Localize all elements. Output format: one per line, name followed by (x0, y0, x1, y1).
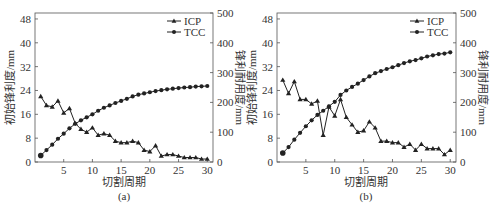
circle-marker (205, 84, 209, 88)
circle-marker (165, 87, 169, 91)
circle-marker (113, 101, 117, 105)
y-tick-label: 48 (20, 13, 32, 25)
circle-marker (425, 54, 429, 58)
figure-canvas: 510152025300816243240480100200300400500切… (0, 0, 494, 211)
circle-marker (379, 69, 383, 73)
y-tick-label: 40 (20, 37, 32, 49)
panel-caption: (a) (118, 190, 131, 203)
circle-marker (142, 91, 146, 95)
y2-tick-label: 300 (217, 67, 234, 79)
circle-marker (67, 126, 71, 130)
circle-marker (44, 148, 48, 152)
circle-marker (56, 137, 60, 141)
x-tick-label: 20 (387, 164, 399, 176)
y2-tick-label: 100 (460, 126, 477, 138)
circle-marker (431, 53, 435, 57)
circle-marker (50, 143, 54, 147)
circle-marker (442, 51, 446, 55)
triangle-marker (153, 143, 158, 147)
triangle-marker (90, 125, 95, 129)
circle-marker (286, 145, 290, 149)
circle-marker (136, 93, 140, 97)
x-tick-label: 10 (329, 164, 341, 176)
series-line-tcc (41, 86, 208, 155)
circle-marker (419, 56, 423, 60)
y-tick-label: 32 (262, 61, 273, 73)
legend-label: TCC (184, 26, 205, 38)
triangle-marker (315, 98, 320, 102)
circle-marker (194, 85, 198, 89)
legend-circle-icon (172, 30, 176, 34)
y-tick-label: 32 (20, 61, 31, 73)
circle-marker (182, 85, 186, 89)
circle-marker (408, 59, 412, 63)
x-tick-label: 30 (202, 164, 214, 176)
triangle-marker (286, 91, 291, 95)
triangle-marker (292, 79, 297, 83)
y2-tick-label: 500 (460, 7, 477, 19)
x-tick-label: 10 (87, 164, 99, 176)
chart-panel-a: 510152025300816243240480100200300400500切… (3, 7, 247, 203)
x-axis-label: 切割周期 (344, 175, 388, 188)
circle-marker (396, 63, 400, 67)
circle-marker (280, 150, 286, 156)
y2-tick-label: 200 (460, 96, 477, 108)
triangle-marker (407, 142, 412, 146)
y-tick-label: 24 (262, 84, 274, 96)
panel-caption: (b) (360, 190, 373, 203)
x-tick-label: 5 (61, 164, 67, 176)
y-tick-label: 0 (26, 156, 32, 168)
series-line-tcc (283, 52, 450, 153)
y-tick-label: 16 (20, 108, 32, 120)
circle-marker (350, 85, 354, 89)
x-tick-label: 15 (358, 164, 370, 176)
x-tick-label: 25 (416, 164, 428, 176)
x-tick-label: 5 (303, 164, 309, 176)
circle-marker (362, 78, 366, 82)
y-axis-label: 初始锋利度/mm (3, 49, 16, 125)
circle-marker (108, 103, 112, 107)
circle-marker (153, 89, 157, 93)
triangle-marker (130, 139, 135, 143)
y2-tick-label: 0 (460, 156, 466, 168)
y2-tick-label: 300 (460, 67, 477, 79)
x-tick-label: 15 (116, 164, 128, 176)
circle-marker (148, 90, 152, 94)
circle-marker (38, 153, 44, 159)
series-line-icp (283, 80, 450, 155)
circle-marker (402, 61, 406, 65)
triangle-marker (367, 119, 372, 123)
triangle-marker (419, 142, 424, 146)
y-tick-label: 8 (26, 132, 32, 144)
circle-marker (385, 67, 389, 71)
circle-marker (96, 109, 100, 113)
circle-marker (333, 100, 337, 104)
circle-marker (356, 82, 360, 86)
x-tick-label: 25 (173, 164, 185, 176)
circle-marker (176, 86, 180, 90)
x-tick-label: 20 (144, 164, 156, 176)
y2-tick-label: 400 (460, 37, 477, 49)
legend-circle-icon (415, 30, 419, 34)
circle-marker (304, 124, 308, 128)
circle-marker (125, 97, 129, 101)
circle-marker (390, 65, 394, 69)
circle-marker (367, 74, 371, 78)
y-tick-label: 8 (268, 132, 274, 144)
triangle-marker (344, 115, 349, 119)
y-tick-label: 0 (268, 156, 274, 168)
y2-tick-label: 0 (217, 156, 223, 168)
circle-marker (188, 85, 192, 89)
circle-marker (102, 106, 106, 110)
y-tick-label: 48 (262, 13, 274, 25)
y2-tick-label: 100 (217, 126, 234, 138)
circle-marker (85, 115, 89, 119)
triangle-marker (67, 106, 72, 110)
y2-tick-label: 200 (217, 96, 234, 108)
circle-marker (437, 52, 441, 56)
triangle-marker (280, 77, 285, 81)
circle-marker (338, 93, 342, 97)
circle-marker (321, 109, 325, 113)
triangle-marker (101, 131, 106, 135)
circle-marker (119, 99, 123, 103)
